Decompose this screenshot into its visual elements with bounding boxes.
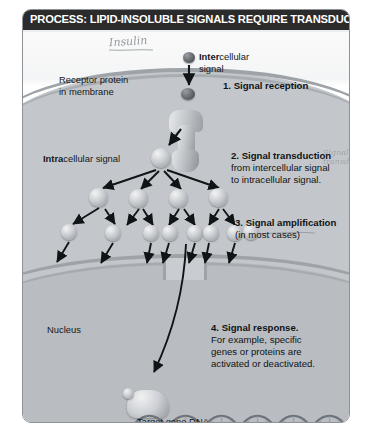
- figure-title-bar: PROCESS: LIPID-INSOLUBLE SIGNALS REQUIRE…: [22, 9, 350, 30]
- target-gene-dna-label: Target gene DNA: [137, 416, 209, 422]
- step-4-text: 4. Signal response. For example, specifi…: [211, 322, 315, 370]
- step-4-line2: genes or proteins are: [211, 346, 302, 357]
- diagram-canvas: Insulin Signal transduction Intercellula…: [23, 32, 349, 422]
- bound-signal-molecule: [123, 388, 134, 399]
- step-4-heading: 4. Signal response.: [211, 322, 298, 333]
- figure-title: PROCESS: LIPID-INSOLUBLE SIGNALS REQUIRE…: [30, 13, 350, 25]
- target-gene-label-text: Target gene DNA: [137, 416, 209, 422]
- step-4-line1: For example, specific: [211, 334, 302, 345]
- step-4-line3: activated or deactivated.: [211, 358, 315, 369]
- process-figure: PROCESS: LIPID-INSOLUBLE SIGNALS REQUIRE…: [22, 9, 350, 423]
